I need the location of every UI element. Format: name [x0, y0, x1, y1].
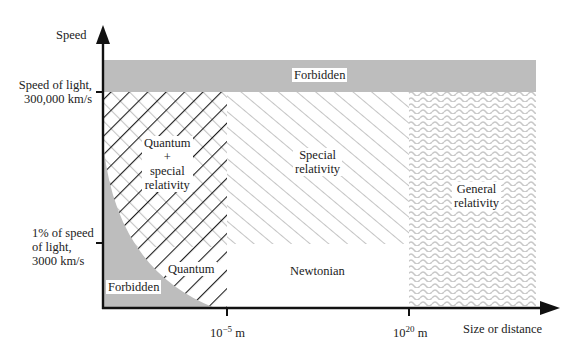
y-tick-label-line: of light,	[32, 240, 94, 254]
x-tick-label-1e20: 1020 m	[393, 322, 427, 340]
forbidden-top-label: Forbidden	[292, 68, 347, 82]
x-axis-label: Size or distance	[463, 322, 542, 336]
y-axis-arrow-icon	[96, 25, 110, 44]
x-tick-label-1e-5: 10−5 m	[210, 322, 245, 340]
x-axis-arrow-icon	[540, 301, 560, 315]
y-axis-label: Speed	[56, 28, 87, 42]
region-label-line: relativity	[144, 178, 191, 192]
y-tick-label-1pct: 1% of speed of light, 3000 km/s	[32, 226, 94, 268]
quantum-special-label: Quantum + special relativity	[142, 136, 193, 192]
region-label-line: relativity	[295, 162, 340, 176]
x-tick-base: 10	[210, 326, 223, 340]
x-tick-exp: 20	[406, 324, 415, 334]
x-tick-exp: −5	[223, 324, 233, 334]
general-relativity-label: General relativity	[452, 182, 501, 210]
x-tick-base: 10	[393, 326, 406, 340]
y-tick-label-line: 3000 km/s	[32, 254, 94, 268]
region-label-line: +	[144, 150, 191, 164]
region-label-line: relativity	[454, 196, 499, 210]
region-label-line: Special	[295, 148, 340, 162]
y-tick-label-line: Speed of light,	[4, 78, 92, 92]
region-label-line: Quantum	[144, 136, 191, 150]
x-tick-unit: m	[232, 326, 245, 340]
y-tick-label-line: 1% of speed	[32, 226, 94, 240]
x-tick-unit: m	[415, 326, 428, 340]
special-relativity-label: Special relativity	[293, 148, 342, 176]
newtonian-label: Newtonian	[290, 264, 345, 278]
y-tick-label-line: 300,000 km/s	[4, 92, 92, 106]
region-label-line: special	[144, 164, 191, 178]
y-tick-label-speed-of-light: Speed of light, 300,000 km/s	[4, 78, 92, 106]
forbidden-bottom-label: Forbidden	[106, 280, 161, 294]
quantum-label: Quantum	[166, 262, 217, 276]
region-label-line: General	[454, 182, 499, 196]
